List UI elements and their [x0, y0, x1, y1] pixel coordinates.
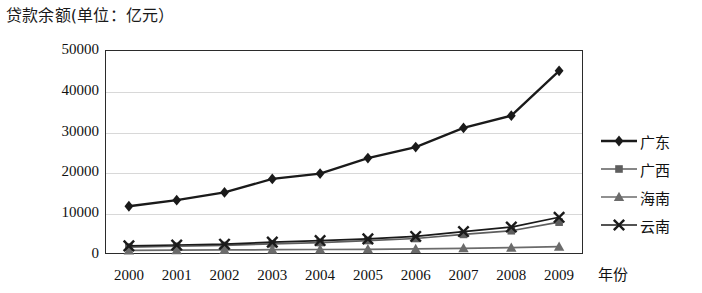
series-line — [129, 247, 559, 251]
legend-item-云南[interactable]: 云南 — [600, 212, 670, 238]
legend-item-海南[interactable]: 海南 — [600, 184, 670, 210]
data-point-marker — [268, 174, 277, 185]
y-axis-tick-label: 20000 — [62, 164, 100, 179]
legend-label: 广东 — [638, 131, 670, 152]
legend-item-广西[interactable]: 广西 — [600, 156, 670, 182]
legend-item-广东[interactable]: 广东 — [600, 128, 670, 154]
legend-marker-triangle-icon — [600, 186, 638, 208]
y-axis-tick-label: 30000 — [62, 124, 100, 139]
x-axis-tick-label: 2005 — [344, 266, 392, 284]
series-广西 — [125, 218, 563, 250]
x-axis-tick-label: 2004 — [296, 266, 344, 284]
data-point-marker — [124, 201, 133, 212]
x-axis-tick-label: 2002 — [201, 266, 249, 284]
x-axis-tick-label: 2009 — [535, 266, 583, 284]
y-axis-tick-label: 50000 — [62, 42, 100, 57]
y-axis-tick-labels: 01000020000300004000050000 — [0, 50, 99, 254]
x-axis-tick-label: 2007 — [440, 266, 488, 284]
x-axis-tick-label: 2006 — [392, 266, 440, 284]
x-axis-tick-label: 2008 — [487, 266, 535, 284]
legend-marker-square-icon — [600, 158, 638, 180]
y-axis-tick-label: 0 — [92, 246, 100, 261]
data-point-marker — [363, 153, 372, 164]
data-point-marker — [172, 195, 181, 206]
series-海南 — [124, 241, 565, 254]
data-point-marker — [316, 168, 325, 179]
legend-label: 广西 — [638, 159, 670, 180]
data-point-marker — [220, 187, 229, 198]
x-axis-tick-labels: 年份 2000200120022003200420052006200720082… — [0, 266, 702, 288]
y-axis-tick-label: 40000 — [62, 83, 100, 98]
data-series-layer — [105, 50, 583, 254]
series-line — [129, 71, 559, 206]
x-axis-tick-label: 2003 — [248, 266, 296, 284]
series-line — [129, 222, 559, 247]
chart-title: 贷款余额(单位：亿元） — [6, 2, 174, 26]
legend-label: 云南 — [638, 215, 670, 236]
legend-marker-diamond-icon — [600, 130, 638, 152]
x-axis-title: 年份 — [598, 266, 628, 284]
y-axis-tick-label: 10000 — [62, 205, 100, 220]
legend-label: 海南 — [638, 187, 670, 208]
legend-marker-x-icon — [600, 214, 638, 236]
data-point-marker — [459, 123, 468, 134]
x-axis-tick-label: 2000 — [105, 266, 153, 284]
chart-container: 贷款余额(单位：亿元） 01000020000300004000050000 年… — [0, 0, 702, 293]
chart-legend: 广东广西海南云南 — [600, 128, 700, 240]
x-axis-tick-label: 2001 — [153, 266, 201, 284]
series-广东 — [124, 65, 563, 211]
data-point-marker — [411, 142, 420, 153]
